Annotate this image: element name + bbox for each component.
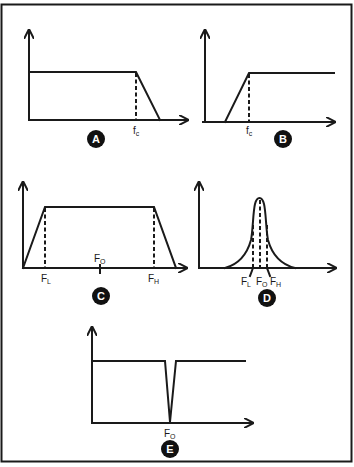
panel-badge-b: B: [274, 130, 292, 148]
panel-d-narrow-band-pass: FL FO FH D: [199, 183, 335, 307]
svg-text:A: A: [92, 133, 100, 145]
svg-text:C: C: [97, 290, 105, 302]
panel-e-notch: FO E: [92, 328, 252, 458]
f-low-label: FL: [41, 273, 51, 285]
panel-c-band-pass: FL FO FH C: [23, 183, 186, 305]
panel-badge-a: A: [87, 130, 105, 148]
filter-diagram: fc A fc B FL FO FH C: [0, 0, 354, 467]
response-curve: [29, 72, 160, 120]
panel-badge-d: D: [258, 289, 276, 307]
cutoff-label: fc: [246, 125, 253, 137]
f-center-label: FO: [164, 428, 176, 440]
response-curve: [225, 73, 334, 122]
response-curve: [92, 361, 245, 422]
svg-text:D: D: [263, 292, 271, 304]
svg-text:E: E: [166, 443, 173, 455]
f-high-leader: [267, 268, 270, 276]
panel-badge-e: E: [161, 440, 179, 458]
f-high-label: FH: [148, 273, 159, 285]
panel-a-low-pass: fc A: [29, 31, 187, 148]
cutoff-label: fc: [133, 125, 140, 137]
f-low-leader: [250, 268, 253, 276]
panel-b-high-pass: fc B: [203, 31, 334, 148]
f-high-label: FH: [270, 276, 281, 288]
f-center-label: FO: [94, 253, 106, 265]
f-center-label: FO: [256, 276, 268, 288]
svg-text:B: B: [279, 133, 287, 145]
f-low-label: FL: [241, 276, 251, 288]
panel-badge-c: C: [92, 287, 110, 305]
